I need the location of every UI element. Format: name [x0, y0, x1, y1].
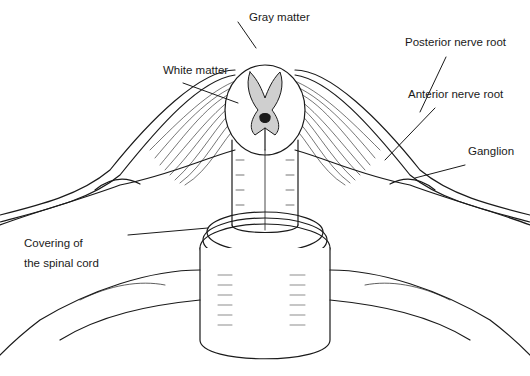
label-covering-line-1: Covering of [24, 233, 99, 253]
label-anterior-nerve-root: Anterior nerve root [408, 89, 503, 101]
anatomy-illustration [0, 0, 530, 376]
label-covering-line-2: the spinal cord [24, 253, 99, 273]
label-gray-matter: Gray matter [249, 12, 310, 24]
label-covering-of-spinal-cord: Covering of the spinal cord [24, 233, 99, 273]
spinal-cord-diagram: Gray matter White matter Posterior nerve… [0, 0, 530, 376]
label-white-matter: White matter [163, 65, 228, 77]
label-posterior-nerve-root: Posterior nerve root [405, 37, 506, 49]
label-ganglion: Ganglion [468, 146, 514, 158]
